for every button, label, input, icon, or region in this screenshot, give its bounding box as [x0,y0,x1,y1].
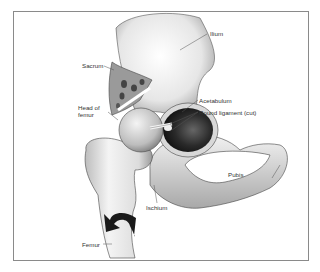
label-ischium: Ischium [146,204,167,211]
label-round-ligament: Round ligament (cut) [199,109,256,116]
label-pubis: Pubis [228,171,243,178]
femur-bone [85,138,152,258]
label-ilium: Ilium [210,30,223,37]
label-acetabulum: Acetabulum [199,97,232,104]
label-femur: Femur [82,241,100,248]
label-head-of-femur-line2: femur [78,111,94,118]
label-sacrum: Sacrum [82,62,103,69]
hip-joint-illustration [0,0,320,272]
label-head-of-femur-line1: Head of [78,104,100,111]
